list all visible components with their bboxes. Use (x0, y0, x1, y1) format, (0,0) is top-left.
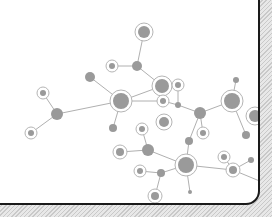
graph-node-z (218, 151, 230, 163)
graph-node-p (221, 90, 243, 112)
graph-node-aa (226, 163, 240, 177)
graph-node-y (185, 137, 193, 145)
graph-node-h (51, 108, 63, 120)
graph-node-n (194, 107, 206, 119)
graph-node-c (106, 60, 118, 72)
graph-node-ac (157, 169, 165, 177)
graph-node-l (172, 79, 184, 91)
graph-node-o (233, 77, 239, 83)
graph-node-f (110, 90, 132, 112)
graph-node-e (85, 72, 95, 82)
graph-node-r (246, 107, 264, 125)
graph-node-w (113, 145, 127, 159)
graph-node-g (37, 87, 49, 99)
graph-node-d (152, 76, 172, 96)
graph-node-x (175, 154, 197, 176)
graph-node-b (132, 61, 142, 71)
graph-node-u (197, 127, 209, 139)
graph-node-i (25, 127, 37, 139)
graph-nodes (25, 23, 264, 203)
graph-node-ab (248, 157, 254, 163)
graph-node-t (136, 123, 148, 135)
graph-node-ae (148, 189, 162, 203)
graph-node-v (142, 144, 154, 156)
graph-node-m (175, 102, 181, 108)
graph-node-j (109, 124, 117, 132)
graph-node-ad (134, 165, 146, 177)
graph-node-a (135, 23, 153, 41)
network-graph-illustration (0, 0, 272, 217)
graph-node-q (242, 131, 250, 139)
graph-node-af (188, 190, 192, 194)
graph-node-k (157, 95, 169, 107)
graph-node-s (156, 114, 172, 130)
